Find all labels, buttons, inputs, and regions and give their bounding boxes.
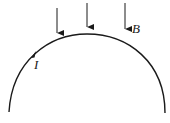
field-label-b: B xyxy=(132,21,140,36)
semicircular-wire xyxy=(9,34,165,113)
diagram-canvas: B I xyxy=(0,0,170,123)
magnetic-field-arrows xyxy=(57,3,125,33)
current-label-i: I xyxy=(33,57,39,72)
